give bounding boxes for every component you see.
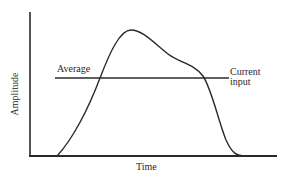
current-input-curve [30, 30, 276, 156]
amplitude-time-diagram [0, 0, 290, 177]
y-axis-label: Amplitude [10, 69, 20, 119]
current-input-label: Current input [230, 67, 261, 87]
average-label: Average [57, 64, 90, 74]
current-input-label-line2: input [230, 77, 261, 87]
x-axis-label: Time [136, 162, 157, 172]
